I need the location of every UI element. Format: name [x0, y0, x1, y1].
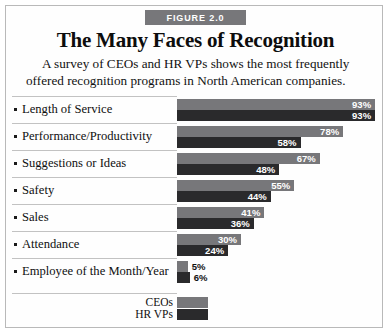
chart-row: Performance/Productivity78%58% — [0, 123, 391, 150]
row-divider — [12, 258, 177, 259]
bar-group: 55%44% — [177, 180, 387, 204]
category-label-text: Length of Service — [22, 102, 112, 116]
bar-group: 93%93% — [177, 99, 387, 123]
bar-value-label: 44% — [177, 191, 267, 202]
category-label-text: Performance/Productivity — [22, 129, 152, 143]
bullet-icon — [14, 243, 17, 246]
category-label: Employee of the Month/Year — [14, 264, 179, 279]
legend-divider — [12, 293, 177, 294]
bar-value-label: 5% — [192, 261, 206, 272]
bar-value-label: 55% — [177, 180, 290, 191]
bar-value-label: 30% — [177, 234, 237, 245]
bar-value-label: 67% — [177, 153, 316, 164]
legend-item: CEOs — [0, 297, 391, 308]
legend-item-label: HR VPs — [135, 309, 173, 320]
bar-value-label: 36% — [177, 218, 250, 229]
category-label-text: Sales — [22, 210, 49, 224]
bar-value-label: 78% — [177, 126, 339, 137]
bar-group: 5%6% — [177, 261, 387, 285]
row-divider — [12, 177, 177, 178]
bar-value-label: 24% — [177, 245, 224, 256]
category-label-text: Suggestions or Ideas — [22, 156, 126, 170]
category-label: Performance/Productivity — [14, 129, 179, 144]
bullet-icon — [14, 162, 17, 165]
legend-swatch — [177, 309, 208, 320]
bar-value-label: 48% — [177, 164, 275, 175]
bar-group: 41%36% — [177, 207, 387, 231]
figure-subtitle: A survey of CEOs and HR VPs shows the mo… — [26, 56, 368, 89]
bar-value-label: 41% — [177, 207, 260, 218]
row-divider — [12, 123, 177, 124]
category-label-text: Employee of the Month/Year — [22, 264, 169, 278]
category-label: Attendance — [14, 237, 179, 252]
legend-item: HR VPs — [0, 309, 391, 320]
chart-row: Attendance30%24% — [0, 231, 391, 258]
chart-row: Sales41%36% — [0, 204, 391, 231]
legend-item-label: CEOs — [146, 297, 173, 308]
bullet-icon — [14, 135, 17, 138]
chart-row: Suggestions or Ideas67%48% — [0, 150, 391, 177]
bullet-icon — [14, 216, 17, 219]
bar-ceos — [177, 261, 188, 272]
row-divider — [12, 204, 177, 205]
chart-row: Safety55%44% — [0, 177, 391, 204]
figure-recognition-chart: FIGURE 2.0 The Many Faces of Recognition… — [0, 0, 391, 334]
chart-row: Employee of the Month/Year5%6% — [0, 258, 391, 285]
category-label: Suggestions or Ideas — [14, 156, 179, 171]
category-label: Safety — [14, 183, 179, 198]
bullet-icon — [14, 108, 17, 111]
bar-group: 78%58% — [177, 126, 387, 150]
row-divider — [12, 150, 177, 151]
legend-swatch — [177, 297, 208, 308]
category-label-text: Attendance — [22, 237, 79, 251]
category-label: Sales — [14, 210, 179, 225]
bar-value-label: 58% — [177, 137, 297, 148]
chart-legend: CEOsHR VPs — [0, 297, 391, 325]
row-divider — [12, 231, 177, 232]
category-label: Length of Service — [14, 102, 179, 117]
figure-title: The Many Faces of Recognition — [0, 28, 391, 53]
category-label-text: Safety — [22, 183, 54, 197]
bullet-icon — [14, 189, 17, 192]
figure-number-badge: FIGURE 2.0 — [145, 10, 246, 25]
bar-value-label: 93% — [177, 99, 371, 110]
chart-row: Length of Service93%93% — [0, 96, 391, 123]
bar-group: 30%24% — [177, 234, 387, 258]
bar-value-label: 93% — [177, 110, 371, 121]
bar-group: 67%48% — [177, 153, 387, 177]
row-divider — [12, 96, 177, 97]
bullet-icon — [14, 270, 17, 273]
bar-hr-vps — [177, 272, 190, 283]
bar-value-label: 6% — [194, 272, 208, 283]
